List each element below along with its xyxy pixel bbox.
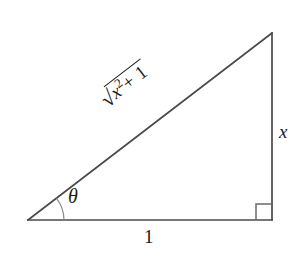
triangle-side-hypotenuse: [28, 33, 272, 220]
triangle-graphic: [0, 0, 298, 259]
right-angle-marker-icon: [256, 204, 272, 220]
angle-label-theta: θ: [68, 186, 78, 206]
side-label-adjacent-one: 1: [144, 227, 154, 246]
angle-arc-theta: [57, 198, 64, 220]
triangle-diagram: θ x 1 √x2+ 1: [0, 0, 298, 259]
side-label-opposite-x: x: [279, 122, 287, 141]
